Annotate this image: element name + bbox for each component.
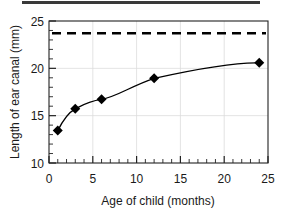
x-tick-label-5: 5	[89, 172, 96, 186]
y-tick-label-15: 15	[31, 109, 45, 123]
x-tick-label-0: 0	[46, 172, 53, 186]
x-tick-labels: 0 5 10 15 20 25	[46, 172, 275, 186]
x-tick-label-15: 15	[174, 172, 188, 186]
y-tick-label-20: 20	[31, 62, 45, 76]
y-tick-labels: 25 20 15 10	[31, 15, 45, 171]
chart-figure: 25 20 15 10 0 5 10 15 20 25 Age of child…	[0, 0, 285, 219]
x-tick-label-25: 25	[261, 172, 275, 186]
y-axis-title: Length of ear canal (mm)	[8, 25, 22, 159]
ear-canal-growth-chart: 25 20 15 10 0 5 10 15 20 25 Age of child…	[0, 0, 285, 219]
x-tick-label-20: 20	[218, 172, 232, 186]
y-tick-label-25: 25	[31, 15, 45, 29]
plot-area-background	[49, 21, 268, 163]
x-axis-title: Age of child (months)	[101, 194, 214, 208]
x-tick-label-10: 10	[130, 172, 144, 186]
y-tick-label-10: 10	[31, 157, 45, 171]
